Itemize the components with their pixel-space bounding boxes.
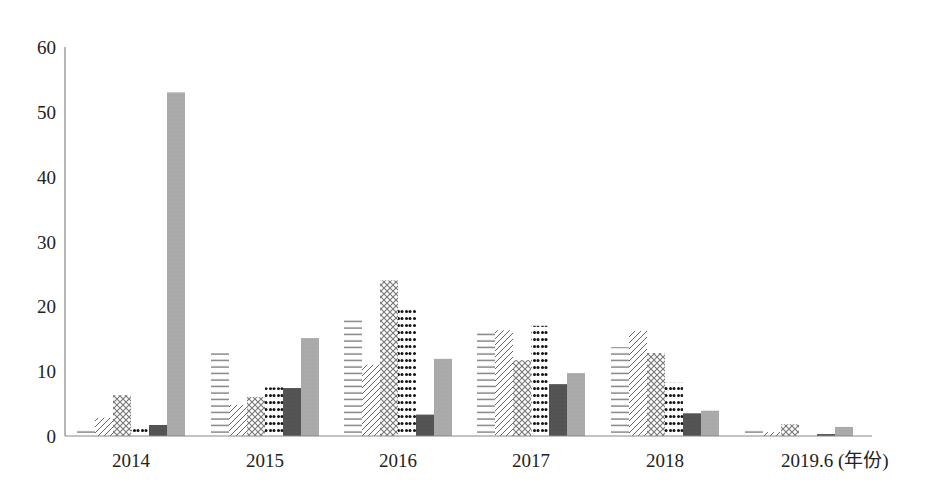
y-tick-label: 10 xyxy=(37,361,56,382)
bar-series-5 xyxy=(683,413,701,436)
x-tick-label: 2015 xyxy=(246,450,284,471)
bar-series-4 xyxy=(131,427,149,436)
bar-series-6 xyxy=(567,373,585,436)
bar-series-3 xyxy=(247,397,265,436)
x-axis-tick-labels: 201420152016201720182019.6 (年份) xyxy=(112,450,889,472)
bar-series-2 xyxy=(495,330,513,436)
bar-series-3 xyxy=(513,360,531,436)
bar-series-3 xyxy=(380,280,398,436)
bar-series-2 xyxy=(229,405,247,436)
bar-series-5 xyxy=(283,388,301,436)
y-tick-label: 60 xyxy=(37,37,56,58)
bar-series-1 xyxy=(344,317,362,436)
y-tick-label: 30 xyxy=(37,232,56,253)
y-tick-label: 0 xyxy=(47,426,57,447)
bar-group-2016 xyxy=(344,280,452,436)
bar-series-4 xyxy=(665,383,683,436)
bar-series-6 xyxy=(434,359,452,436)
x-tick-label: 2016 xyxy=(379,450,417,471)
bar-series-5 xyxy=(549,384,567,436)
bar-series-6 xyxy=(167,92,185,436)
bar-series-2 xyxy=(629,331,647,436)
bar-series-5 xyxy=(416,415,434,436)
bar-groups xyxy=(77,92,853,436)
bar-group-2018 xyxy=(611,331,719,436)
bar-series-4 xyxy=(398,307,416,436)
bar-group-2019-6 xyxy=(745,424,853,436)
x-tick-label: 2014 xyxy=(112,450,151,471)
y-axis-tick-labels: 0102030405060 xyxy=(37,37,56,447)
bar-series-6 xyxy=(301,338,319,436)
bar-series-6 xyxy=(701,411,719,436)
y-tick-label: 50 xyxy=(37,102,56,123)
bar-series-4 xyxy=(265,387,283,436)
bar-series-3 xyxy=(647,353,665,436)
bar-series-1 xyxy=(745,430,763,436)
bar-series-4 xyxy=(531,326,549,436)
bar-series-1 xyxy=(611,347,629,436)
bar-series-1 xyxy=(477,332,495,436)
bar-series-1 xyxy=(211,353,229,436)
bar-series-5 xyxy=(149,425,167,436)
bar-group-2015 xyxy=(211,338,319,436)
y-tick-label: 40 xyxy=(37,167,56,188)
y-tick-label: 20 xyxy=(37,296,56,317)
bar-group-2014 xyxy=(77,92,185,436)
bar-group-2017 xyxy=(477,326,585,436)
bar-series-3 xyxy=(781,424,799,436)
legend-cut-off xyxy=(0,488,935,502)
bar-series-2 xyxy=(362,365,380,436)
bar-series-6 xyxy=(835,427,853,436)
x-tick-label: 2018 xyxy=(646,450,684,471)
bar-chart: 0102030405060 201420152016201720182019.6… xyxy=(0,0,935,502)
bar-series-3 xyxy=(113,395,131,436)
x-tick-label: 2019.6 (年份) xyxy=(781,450,889,472)
bar-series-2 xyxy=(95,418,113,436)
x-tick-label: 2017 xyxy=(512,450,550,471)
bar-series-1 xyxy=(77,428,95,436)
